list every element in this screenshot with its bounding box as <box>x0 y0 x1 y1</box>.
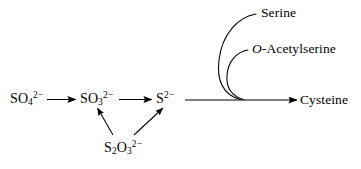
pathway-diagram: SO42− SO32− S2− S2O32− Serine O-Acetylse… <box>0 0 361 169</box>
pathway-arrows-layer <box>0 0 361 169</box>
node-sulfate-charge: 2− <box>33 90 43 100</box>
node-sulfate: SO42− <box>10 92 43 106</box>
label-o-acetylserine: O-Acetylserine <box>252 42 336 56</box>
node-thiosulfate-charge: 2− <box>132 139 142 149</box>
label-serine: Serine <box>261 6 296 20</box>
curve-serine-inflow <box>218 14 256 100</box>
node-sulfide: S2− <box>156 92 174 106</box>
label-serine-text: Serine <box>261 5 296 20</box>
node-sulfate-base: SO <box>10 91 28 106</box>
label-o-acetylserine-italic-o: O <box>252 41 262 56</box>
arrow-thiosulfate-to-sulfide <box>134 108 163 135</box>
label-o-acetylserine-text: -Acetylserine <box>262 41 336 56</box>
node-sulfite: SO32− <box>80 92 113 106</box>
node-sulfite-base: SO <box>80 91 98 106</box>
node-sulfide-charge: 2− <box>164 90 174 100</box>
node-thiosulfate-base2: O <box>117 140 127 155</box>
curve-o-acetylserine-inflow <box>227 50 248 100</box>
node-sulfite-charge: 2− <box>103 90 113 100</box>
node-sulfide-base: S <box>156 91 164 106</box>
label-cysteine-text: Cysteine <box>300 92 348 107</box>
arrow-thiosulfate-to-sulfite <box>98 108 114 135</box>
node-thiosulfate: S2O32− <box>104 141 142 155</box>
node-thiosulfate-base: S <box>104 140 112 155</box>
label-cysteine: Cysteine <box>300 93 348 107</box>
